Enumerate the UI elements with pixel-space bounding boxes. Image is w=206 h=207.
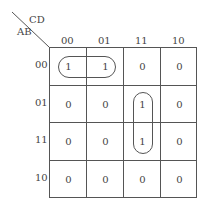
col-variable-label: CD (29, 14, 45, 25)
row-label-01: 01 (35, 97, 48, 108)
cell-10-00: 0 (50, 161, 87, 199)
group-loop-vertical (133, 92, 153, 154)
cell-10-11: 0 (124, 161, 161, 199)
cell-11-00: 0 (50, 123, 87, 161)
group-loop-horizontal (58, 56, 116, 78)
row-label-10: 10 (35, 172, 48, 183)
row-variable-label: AB (17, 26, 32, 37)
cell-10-01: 0 (87, 161, 124, 199)
cell-01-01: 0 (87, 86, 124, 124)
cell-00-10: 0 (161, 48, 198, 86)
cell-00-11: 0 (124, 48, 161, 86)
row-label-00: 00 (35, 59, 48, 70)
cell-01-00: 0 (50, 86, 87, 124)
col-label-11: 11 (135, 35, 148, 46)
cell-10-10: 0 (161, 161, 198, 199)
col-label-10: 10 (172, 35, 185, 46)
cell-11-01: 0 (87, 123, 124, 161)
row-label-11: 11 (35, 134, 48, 145)
karnaugh-map-grid: 1 1 0 0 0 0 1 0 0 0 1 0 0 0 0 0 (49, 47, 197, 198)
cell-11-10: 0 (161, 123, 198, 161)
col-label-00: 00 (61, 35, 74, 46)
col-label-01: 01 (98, 35, 111, 46)
cell-01-10: 0 (161, 86, 198, 124)
